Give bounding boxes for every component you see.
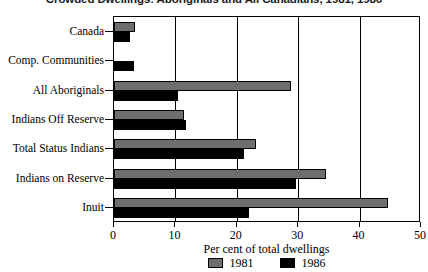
bar-1986-indians-on-reserve (114, 179, 296, 189)
y-axis-tick (105, 148, 113, 149)
x-axis-tick (359, 222, 360, 227)
bar-1981-total-status-indians (114, 139, 256, 149)
legend-swatch-1986 (280, 258, 295, 268)
gridline (360, 17, 361, 221)
gridline (237, 17, 238, 221)
y-axis-label-indians-on-reserve: Indians on Reserve (16, 172, 104, 184)
legend-item-1986: 1986 (280, 256, 326, 271)
y-axis-label-total-status-indians: Total Status Indians (13, 142, 104, 154)
gridline (298, 17, 299, 221)
legend-label-1986: 1986 (302, 256, 326, 271)
bar-1986-inuit (114, 208, 249, 218)
y-axis-tick (105, 119, 113, 120)
x-axis-tick-label-40: 40 (353, 228, 365, 243)
bar-1981-inuit (114, 198, 388, 208)
bar-1986-total-status-indians (114, 149, 244, 159)
bar-1981-canada (114, 22, 135, 32)
x-axis-tick (420, 222, 421, 227)
bar-1986-canada (114, 32, 130, 42)
y-axis-tick (105, 207, 113, 208)
y-axis-tick (105, 90, 113, 91)
x-axis-tick (236, 222, 237, 227)
x-axis-title: Per cent of total dwellings (113, 242, 420, 257)
y-axis-label-comp-communities: Comp. Communities (8, 54, 104, 66)
y-axis-label-all-aboriginals: All Aboriginals (33, 84, 104, 96)
bar-1981-indians-off-reserve (114, 110, 184, 120)
bar-1981-indians-on-reserve (114, 169, 326, 179)
y-axis-label-inuit: Inuit (82, 201, 104, 213)
y-axis-label-canada: Canada (70, 25, 104, 37)
bar-1981-all-aboriginals (114, 81, 291, 91)
y-axis-label-indians-off-reserve: Indians Off Reserve (12, 113, 104, 125)
x-axis-tick (297, 222, 298, 227)
x-axis-tick-label-50: 50 (414, 228, 426, 243)
legend-item-1981: 1981 (208, 256, 254, 271)
x-axis-tick-label-group: 01020304050 (0, 228, 428, 243)
chart-legend: 19811986 (113, 256, 420, 270)
bar-1986-all-aboriginals (114, 91, 178, 101)
y-axis-tick (105, 31, 113, 32)
legend-label-1981: 1981 (230, 256, 254, 271)
x-axis-tick-label-0: 0 (110, 228, 116, 243)
bar-1986-indians-off-reserve (114, 120, 186, 130)
x-axis-tick (113, 222, 114, 227)
x-axis-tick-label-20: 20 (230, 228, 242, 243)
x-axis-tick-label-10: 10 (168, 228, 180, 243)
y-axis-tick (105, 60, 113, 61)
y-axis-label-group: CanadaComp. CommunitiesAll AboriginalsIn… (0, 16, 113, 222)
x-axis-tick-label-30: 30 (291, 228, 303, 243)
y-axis-tick (105, 178, 113, 179)
chart-title: Crowded Dwellings: Aboriginals and All C… (0, 0, 428, 7)
x-axis-tick (174, 222, 175, 227)
legend-swatch-1981 (208, 258, 223, 268)
bar-1986-comp-communities (114, 61, 134, 71)
plot-area (113, 16, 420, 222)
